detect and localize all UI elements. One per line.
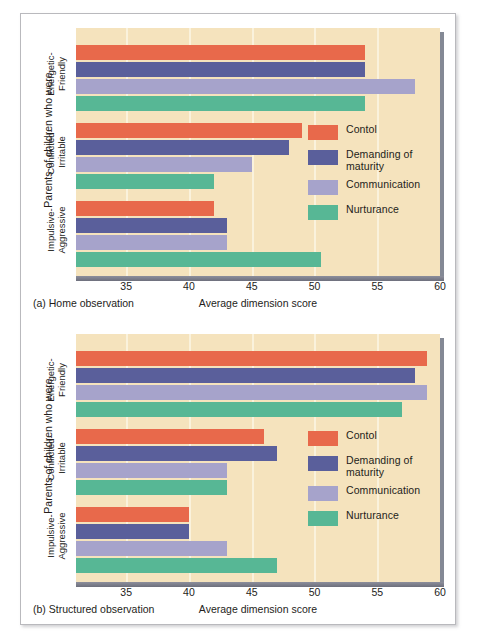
x-tick-label-35: 35 <box>120 280 132 292</box>
legend-swatch-nurturance-a <box>308 205 338 220</box>
bar-control-1[interactable] <box>76 123 302 138</box>
x-axis-title-b: Average dimension score <box>76 603 440 615</box>
x-tick-label-40: 40 <box>183 586 195 598</box>
x-tick-label-60: 60 <box>434 586 446 598</box>
bar-control-2[interactable] <box>76 201 214 216</box>
figure-container: Parents of children who were Energetic-F… <box>20 13 456 625</box>
legend-item-communication-b[interactable]: Communication <box>308 485 432 503</box>
bar-demanding-0[interactable] <box>76 368 415 383</box>
y-category-label-impulsive-aggressive-a: Impulsive-Aggressive <box>45 190 67 270</box>
legend-swatch-demanding-a <box>308 150 338 165</box>
bar-demanding-2[interactable] <box>76 524 189 539</box>
y-category-label-impulsive-aggressive-b: Impulsive-Aggressive <box>45 496 67 576</box>
legend-swatch-communication-b <box>308 486 338 501</box>
y-category-label-energetic-friendly-b: Energetic-Friendly <box>45 340 67 420</box>
bar-communication-2[interactable] <box>76 541 227 556</box>
x-tick-label-55: 55 <box>371 280 383 292</box>
bar-nurturance-0[interactable] <box>76 402 402 417</box>
legend-label-communication-a: Communication <box>346 179 432 191</box>
x-tick-label-45: 45 <box>246 280 258 292</box>
x-tick-label-35: 35 <box>120 586 132 598</box>
bar-group-energetic-friendly <box>76 351 440 417</box>
legend-b: Contol Demanding of maturity Communicati… <box>308 430 432 535</box>
legend-item-nurturance-b[interactable]: Nurturance <box>308 510 432 528</box>
x-tick-label-60: 60 <box>434 280 446 292</box>
legend-item-demanding-b[interactable]: Demanding of maturity <box>308 455 432 478</box>
bar-nurturance-0[interactable] <box>76 96 365 111</box>
bar-communication-1[interactable] <box>76 157 252 172</box>
plot-background-b: Contol Demanding of maturity Communicati… <box>76 334 440 582</box>
x-axis-ticks-a: 354045505560 <box>76 280 444 294</box>
bar-demanding-1[interactable] <box>76 446 277 461</box>
bar-demanding-0[interactable] <box>76 62 365 77</box>
bar-control-2[interactable] <box>76 507 189 522</box>
legend-item-demanding-a[interactable]: Demanding of maturity <box>308 149 432 172</box>
bar-group-energetic-friendly <box>76 45 440 111</box>
legend-label-control-a: Contol <box>346 124 432 136</box>
legend-item-control-a[interactable]: Contol <box>308 124 432 142</box>
legend-label-communication-b: Communication <box>346 485 432 497</box>
chart-panel-b: Parents of children who were Energetic-F… <box>21 320 457 626</box>
legend-swatch-control-b <box>308 431 338 446</box>
bar-nurturance-1[interactable] <box>76 480 227 495</box>
bar-demanding-2[interactable] <box>76 218 227 233</box>
y-category-label-energetic-friendly-a: Energetic-Friendly <box>45 34 67 114</box>
legend-label-demanding-a: Demanding of maturity <box>346 149 432 172</box>
legend-item-nurturance-a[interactable]: Nurturance <box>308 204 432 222</box>
legend-swatch-control-a <box>308 125 338 140</box>
bar-communication-0[interactable] <box>76 385 427 400</box>
bar-communication-2[interactable] <box>76 235 227 250</box>
x-tick-label-45: 45 <box>246 586 258 598</box>
x-axis-ticks-b: 354045505560 <box>76 586 444 600</box>
plot-background-a: Contol Demanding of maturity Communicati… <box>76 28 440 276</box>
bar-nurturance-2[interactable] <box>76 558 277 573</box>
legend-label-demanding-b: Demanding of maturity <box>346 455 432 478</box>
legend-a: Contol Demanding of maturity Communicati… <box>308 124 432 229</box>
legend-swatch-demanding-b <box>308 456 338 471</box>
bar-control-1[interactable] <box>76 429 264 444</box>
legend-label-control-b: Contol <box>346 430 432 442</box>
bar-communication-1[interactable] <box>76 463 227 478</box>
legend-swatch-communication-a <box>308 180 338 195</box>
bar-nurturance-2[interactable] <box>76 252 321 267</box>
legend-item-communication-a[interactable]: Communication <box>308 179 432 197</box>
x-tick-label-50: 50 <box>309 586 321 598</box>
plot-area-a: Contol Demanding of maturity Communicati… <box>76 28 440 276</box>
plot-area-b: Contol Demanding of maturity Communicati… <box>76 334 440 582</box>
legend-label-nurturance-b: Nurturance <box>346 510 432 522</box>
bar-control-0[interactable] <box>76 351 427 366</box>
x-tick-label-50: 50 <box>309 280 321 292</box>
y-category-label-conflicted-irritable-b: Conflicted-Irritable <box>45 418 67 498</box>
bar-control-0[interactable] <box>76 45 365 60</box>
legend-swatch-nurturance-b <box>308 511 338 526</box>
chart-panel-a: Parents of children who were Energetic-F… <box>21 14 457 320</box>
bar-nurturance-1[interactable] <box>76 174 214 189</box>
bar-demanding-1[interactable] <box>76 140 289 155</box>
x-tick-label-55: 55 <box>371 586 383 598</box>
x-tick-label-40: 40 <box>183 280 195 292</box>
y-category-label-conflicted-irritable-a: Conflicted-Irritable <box>45 112 67 192</box>
x-axis-title-a: Average dimension score <box>76 297 440 309</box>
bar-communication-0[interactable] <box>76 79 415 94</box>
legend-item-control-b[interactable]: Contol <box>308 430 432 448</box>
legend-label-nurturance-a: Nurturance <box>346 204 432 216</box>
